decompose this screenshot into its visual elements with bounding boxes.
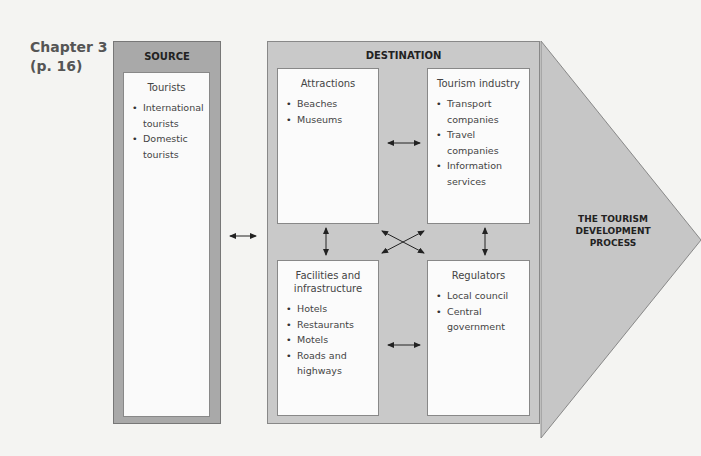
connector-arrows — [0, 0, 701, 456]
diagonal-cross-arrows-icon — [382, 231, 424, 253]
